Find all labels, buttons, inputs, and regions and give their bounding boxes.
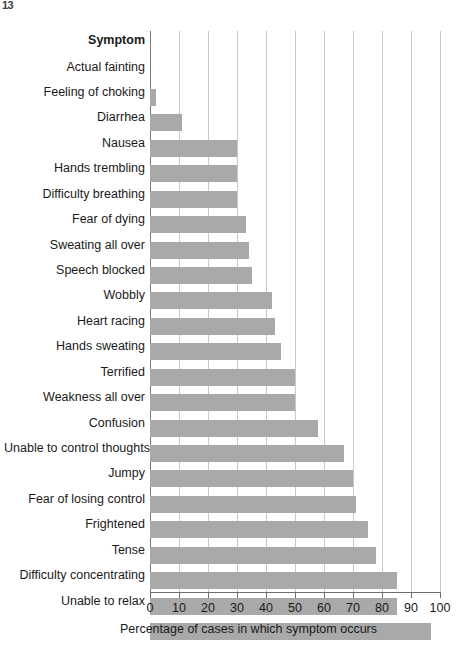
- category-label: Terrified: [4, 365, 150, 379]
- bar: [150, 140, 237, 157]
- category-label: Sweating all over: [4, 238, 150, 252]
- bar: [150, 191, 237, 208]
- bar: [150, 216, 246, 233]
- x-tick-label-100: 100: [420, 601, 460, 615]
- category-axis-header: Symptom: [4, 33, 150, 47]
- bar: [150, 165, 237, 182]
- x-tick-mark-20: [208, 592, 209, 598]
- x-tick-mark-70: [353, 592, 354, 598]
- bar: [150, 420, 318, 437]
- gridline-80: [382, 31, 383, 592]
- category-label: Jumpy: [4, 466, 150, 480]
- bar: [150, 521, 368, 538]
- category-label: Heart racing: [4, 314, 150, 328]
- category-label: Tense: [4, 543, 150, 557]
- bar: [150, 572, 397, 589]
- category-label: Diarrhea: [4, 110, 150, 124]
- bar: [150, 267, 252, 284]
- x-axis-title: Percentage of cases in which symptom occ…: [0, 622, 471, 637]
- category-label: Unable to relax: [4, 594, 150, 608]
- category-label: Nausea: [4, 136, 150, 150]
- category-label: Feeling of choking: [4, 85, 150, 99]
- category-label: Fear of dying: [4, 212, 150, 226]
- x-tick-mark-60: [324, 592, 325, 598]
- bar: [150, 292, 272, 309]
- x-tick-mark-50: [295, 592, 296, 598]
- bar: [150, 242, 249, 259]
- bar: [150, 343, 281, 360]
- bar: [150, 445, 344, 462]
- horizontal-bar-chart: Symptom Actual faintingFeeling of chokin…: [0, 0, 471, 662]
- category-axis-labels: Symptom Actual faintingFeeling of chokin…: [0, 0, 150, 662]
- x-tick-mark-10: [179, 592, 180, 598]
- x-tick-mark-90: [411, 592, 412, 598]
- x-tick-mark-80: [382, 592, 383, 598]
- bar: [150, 394, 295, 411]
- x-tick-mark-100: [440, 592, 441, 598]
- category-label: Hands trembling: [4, 161, 150, 175]
- gridline-90: [411, 31, 412, 592]
- category-label: Hands sweating: [4, 339, 150, 353]
- bar: [150, 318, 275, 335]
- x-tick-mark-0: [150, 592, 151, 598]
- category-label: Actual fainting: [4, 60, 150, 74]
- category-label: Difficulty breathing: [4, 187, 150, 201]
- category-label: Difficulty concentrating: [4, 568, 150, 582]
- category-label: Unable to control thoughts: [4, 441, 150, 455]
- category-label: Wobbly: [4, 288, 150, 302]
- plot-area: [150, 31, 440, 592]
- category-label: Speech blocked: [4, 263, 150, 277]
- category-label: Frightened: [4, 517, 150, 531]
- bar: [150, 114, 182, 131]
- category-label: Weakness all over: [4, 390, 150, 404]
- x-tick-mark-40: [266, 592, 267, 598]
- bar: [150, 496, 356, 513]
- category-label: Fear of losing control: [4, 492, 150, 506]
- bar: [150, 89, 156, 106]
- gridline-100: [440, 31, 441, 592]
- bar: [150, 547, 376, 564]
- category-label: Confusion: [4, 416, 150, 430]
- bar: [150, 369, 295, 386]
- bar: [150, 470, 353, 487]
- x-tick-mark-30: [237, 592, 238, 598]
